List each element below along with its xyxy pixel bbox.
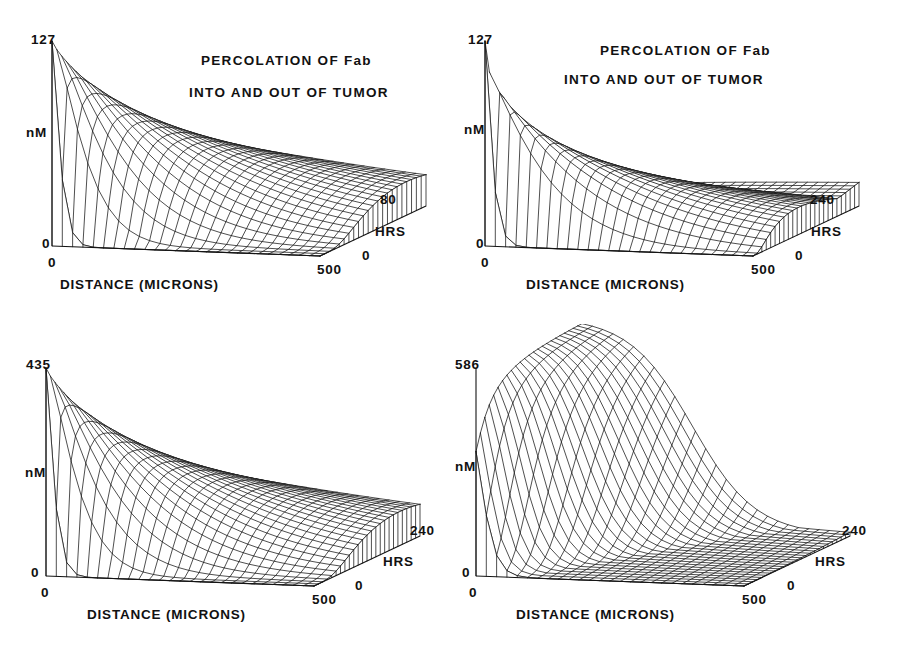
panel-1-x-axis-label: DISTANCE (MICRONS)	[60, 278, 219, 292]
panel-4-zmax-label: 586	[455, 358, 480, 372]
panel-2-z-axis-label: nM	[464, 123, 485, 137]
panel-4-x-axis-label: DISTANCE (MICRONS)	[516, 608, 675, 622]
panel-2-zmin-label: 0	[476, 237, 484, 251]
panel-2-x-axis-label: DISTANCE (MICRONS)	[526, 278, 685, 292]
panel-3-xmin-label: 0	[41, 586, 49, 600]
panel-2-zmax-label: 127	[468, 33, 493, 47]
panel-1-zmax-label: 127	[31, 33, 56, 47]
panel-2-ymin-label: 0	[795, 249, 803, 263]
panel-3-y-axis-label: HRS	[383, 555, 414, 569]
panel-2-title-line-2: INTO AND OUT OF TUMOR	[564, 73, 764, 87]
surface-panel-1: 127 0 nM 0 500 DISTANCE (MICRONS) 0 80 H…	[0, 0, 452, 323]
panel-1-zmin-label: 0	[42, 237, 50, 251]
panel-4-xmax-label: 500	[742, 593, 767, 607]
surface-plot-3	[0, 324, 452, 647]
figure-root: 127 0 nM 0 500 DISTANCE (MICRONS) 0 80 H…	[0, 0, 904, 647]
panel-2-xmin-label: 0	[481, 256, 489, 270]
surface-panel-4: 586 0 nM 0 500 DISTANCE (MICRONS) 0 240 …	[452, 324, 904, 647]
panel-2-y-axis-label: HRS	[811, 225, 842, 239]
panel-3-ymin-label: 0	[355, 579, 363, 593]
surface-panel-3: 435 0 nM 0 500 DISTANCE (MICRONS) 0 240 …	[0, 324, 452, 647]
panel-3-zmin-label: 0	[31, 566, 39, 580]
panel-4-y-axis-label: HRS	[815, 555, 846, 569]
panel-1-ymax-label: 80	[380, 193, 397, 207]
panel-1-z-axis-label: nM	[26, 126, 47, 140]
panel-1-xmax-label: 500	[317, 263, 342, 277]
panel-1-y-axis-label: HRS	[375, 225, 406, 239]
panel-4-xmin-label: 0	[469, 586, 477, 600]
surface-panel-2: 127 0 nM 0 500 DISTANCE (MICRONS) 0 240 …	[452, 0, 904, 323]
panel-1-title-line-1: PERCOLATION OF Fab	[201, 54, 372, 68]
panel-4-ymax-label: 240	[842, 524, 867, 538]
panel-2-ymax-label: 240	[810, 193, 835, 207]
panel-3-zmax-label: 435	[26, 358, 51, 372]
panel-1-title-line-2: INTO AND OUT OF TUMOR	[189, 86, 389, 100]
surface-plot-1	[0, 0, 452, 323]
panel-2-xmax-label: 500	[751, 263, 776, 277]
panel-1-xmin-label: 0	[48, 256, 56, 270]
panel-2-title-line-1: PERCOLATION OF Fab	[600, 44, 771, 58]
panel-3-z-axis-label: nM	[25, 466, 46, 480]
panel-3-ymax-label: 240	[410, 524, 435, 538]
panel-1-ymin-label: 0	[362, 249, 370, 263]
panel-3-x-axis-label: DISTANCE (MICRONS)	[87, 608, 246, 622]
surface-plot-4	[452, 324, 904, 647]
panel-4-z-axis-label: nM	[455, 460, 476, 474]
panel-4-zmin-label: 0	[462, 566, 470, 580]
panel-4-ymin-label: 0	[787, 579, 795, 593]
panel-3-xmax-label: 500	[312, 593, 337, 607]
